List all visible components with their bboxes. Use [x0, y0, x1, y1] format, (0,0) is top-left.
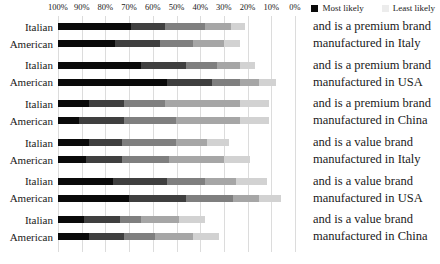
x-axis-tick-label: 70% [121, 2, 137, 12]
bar-segment-rank-1 [58, 216, 84, 223]
bar-segment-rank-6 [276, 79, 295, 86]
stacked-bar [58, 216, 295, 223]
bar-segment-rank-1 [58, 23, 131, 30]
bar-row-italian: Italian [0, 21, 295, 33]
stacked-bar [58, 233, 295, 240]
bar-segment-rank-5 [259, 79, 276, 86]
bar-segment-rank-2 [141, 62, 186, 69]
bar-segment-rank-2 [131, 23, 164, 30]
bar-segment-rank-3 [122, 139, 177, 146]
bar-segment-rank-5 [240, 62, 254, 69]
bar-row-american: American [0, 38, 295, 50]
bar-segment-rank-6 [269, 117, 295, 124]
bar-segment-rank-5 [240, 100, 268, 107]
bar-segment-rank-5 [193, 233, 219, 240]
bar-segment-rank-2 [129, 195, 186, 202]
scenario-label-line: and is a premium brand [313, 18, 440, 35]
stacked-bar [58, 62, 295, 69]
bar-segment-rank-1 [58, 233, 89, 240]
bar-row-italian: Italian [0, 98, 295, 110]
x-axis-tick-label: 20% [240, 2, 256, 12]
x-axis-tick-label: 30% [216, 2, 232, 12]
stacked-bar [58, 139, 295, 146]
x-axis-tick-label: 50% [169, 2, 185, 12]
bar-segment-rank-4 [240, 79, 259, 86]
bar-segment-rank-6 [240, 40, 295, 47]
row-label: American [0, 38, 58, 50]
bar-segment-rank-6 [205, 216, 295, 223]
bar-segment-rank-4 [217, 62, 241, 69]
stacked-bar [58, 178, 295, 185]
legend-label-least-likely: Least likely [393, 3, 435, 13]
x-axis-tick-label: 90% [74, 2, 90, 12]
bar-segment-rank-3 [186, 195, 233, 202]
bar-row-american: American [0, 192, 295, 204]
bar-segment-rank-4 [165, 100, 241, 107]
bar-segment-rank-6 [267, 178, 295, 185]
bar-segment-rank-1 [58, 100, 89, 107]
bar-segment-rank-6 [281, 195, 295, 202]
scenario-label-line: and is a premium brand [313, 95, 440, 112]
bar-pair: ItalianAmerican [0, 59, 295, 88]
scenario-label: and is a value brandmanufactured in USA [313, 173, 440, 207]
bar-segment-rank-3 [186, 62, 217, 69]
scenario-label: and is a value brandmanufactured in Chin… [313, 211, 440, 245]
bar-segment-rank-3 [165, 23, 205, 30]
bar-segment-rank-6 [229, 139, 295, 146]
scenario-label: and is a value brandmanufactured in Ital… [313, 134, 440, 168]
legend-label-most-likely: Most likely [322, 3, 363, 13]
scenario-label: and is a premium brandmanufactured in US… [313, 57, 440, 91]
bar-segment-rank-5 [236, 178, 267, 185]
bar-segment-rank-1 [58, 195, 129, 202]
bar-row-italian: Italian [0, 175, 295, 187]
bar-segment-rank-5 [207, 139, 228, 146]
x-axis-tick-label: 10% [264, 2, 280, 12]
x-axis-ticks: 100%90%80%70%60%50%40%30%20%10%0% [58, 0, 295, 14]
bar-segment-rank-3 [124, 233, 155, 240]
bar-segment-rank-3 [160, 40, 193, 47]
stacked-bar [58, 195, 295, 202]
bar-segment-rank-3 [122, 156, 169, 163]
bar-segment-rank-3 [124, 100, 164, 107]
row-label: Italian [0, 59, 58, 71]
bar-row-italian: Italian [0, 59, 295, 71]
bar-segment-rank-6 [245, 23, 295, 30]
stacked-bar [58, 79, 295, 86]
bar-segment-rank-3 [124, 117, 176, 124]
most-likely-swatch-icon [311, 5, 318, 12]
scenario-group: ItalianAmericanand is a premium brandman… [0, 16, 440, 55]
bar-segment-rank-3 [212, 79, 240, 86]
plot-groups: ItalianAmericanand is a premium brandman… [0, 16, 440, 248]
bar-segment-rank-2 [115, 40, 160, 47]
bar-segment-rank-2 [89, 233, 125, 240]
bar-segment-rank-5 [240, 117, 268, 124]
bar-segment-rank-4 [155, 233, 193, 240]
bar-row-american: American [0, 76, 295, 88]
row-label: Italian [0, 214, 58, 226]
x-axis-tick-label: 80% [98, 2, 114, 12]
bar-row-american: American [0, 231, 295, 243]
stacked-bar [58, 40, 295, 47]
bar-segment-rank-5 [259, 195, 280, 202]
bar-row-italian: Italian [0, 137, 295, 149]
scenario-label-line: manufactured in USA [313, 74, 440, 91]
stacked-bar [58, 23, 295, 30]
bar-segment-rank-1 [58, 139, 89, 146]
scenario-label: and is a premium brandmanufactured in Ch… [313, 95, 440, 129]
bar-segment-rank-4 [205, 178, 236, 185]
bar-segment-rank-2 [86, 156, 122, 163]
bar-segment-rank-2 [79, 117, 124, 124]
bar-pair: ItalianAmerican [0, 21, 295, 50]
bar-segment-rank-4 [233, 195, 259, 202]
scenario-label-line: and is a value brand [313, 211, 440, 228]
bar-segment-rank-2 [113, 178, 168, 185]
scenario-group: ItalianAmericanand is a value brandmanuf… [0, 132, 440, 171]
stacked-bar [58, 117, 295, 124]
x-axis-tick-label: 60% [145, 2, 161, 12]
bar-segment-rank-2 [167, 79, 212, 86]
stacked-bar [58, 100, 295, 107]
scenario-group: ItalianAmericanand is a value brandmanuf… [0, 170, 440, 209]
bar-segment-rank-3 [167, 178, 205, 185]
bar-segment-rank-5 [231, 23, 245, 30]
x-axis-tick-label: 40% [192, 2, 208, 12]
